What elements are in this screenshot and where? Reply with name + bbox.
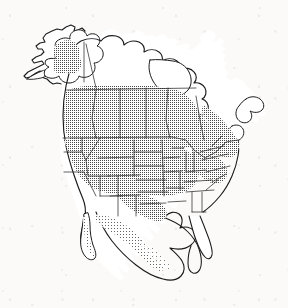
north-america-map <box>0 0 288 308</box>
border-tn-ms-al-ga <box>186 190 214 192</box>
range-map-figure <box>0 0 288 308</box>
shade-alaska <box>53 40 81 73</box>
